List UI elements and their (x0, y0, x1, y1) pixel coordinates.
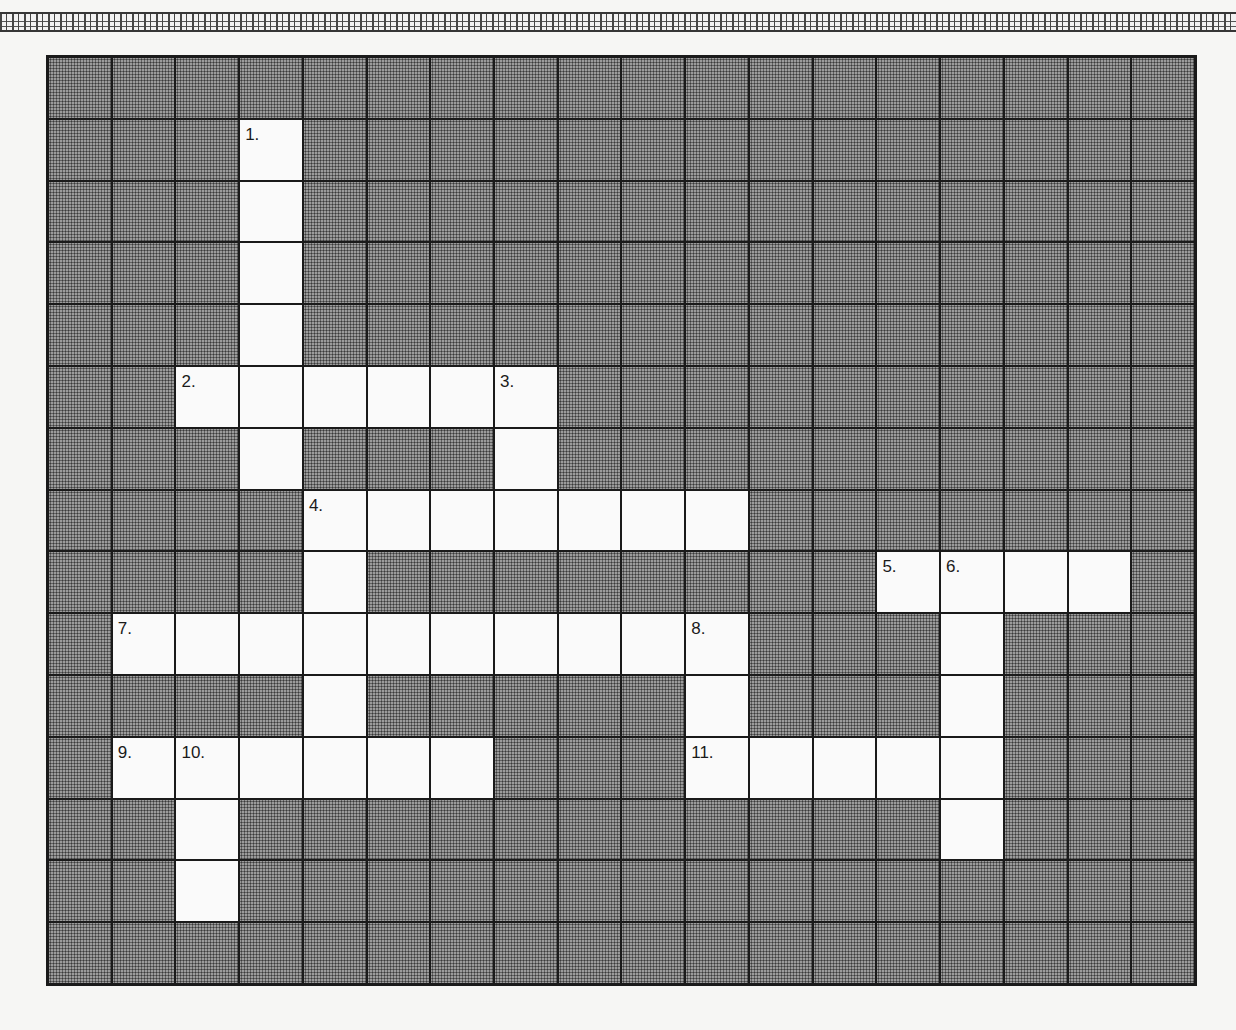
crossword-cell-open[interactable] (368, 614, 430, 674)
crossword-cell-open[interactable] (240, 243, 302, 303)
crossword-cell-blocked (622, 861, 684, 921)
crossword-cell-open[interactable] (240, 305, 302, 365)
crossword-cell-open[interactable] (240, 367, 302, 427)
crossword-cell-blocked (49, 676, 111, 736)
crossword-cell-blocked (1069, 182, 1131, 242)
crossword-cell-blocked (877, 491, 939, 551)
crossword-cell-open[interactable]: 1. (240, 120, 302, 180)
crossword-cell-blocked (368, 120, 430, 180)
crossword-cell-open[interactable] (495, 429, 557, 489)
crossword-cell-open[interactable] (686, 491, 748, 551)
crossword-cell-open[interactable]: 5. (877, 552, 939, 612)
crossword-cell-open[interactable] (559, 491, 621, 551)
crossword-cell-open[interactable] (176, 614, 238, 674)
crossword-cell-open[interactable] (431, 367, 493, 427)
crossword-cell-open[interactable] (1069, 552, 1131, 612)
crossword-cell-blocked (495, 305, 557, 365)
crossword-cell-blocked (1005, 305, 1067, 365)
crossword-cell-blocked (559, 58, 621, 118)
crossword-cell-blocked (1005, 614, 1067, 674)
crossword-cell-blocked (1005, 182, 1067, 242)
crossword-cell-blocked (750, 923, 812, 983)
crossword-cell-blocked (1132, 182, 1194, 242)
crossword-cell-open[interactable] (304, 367, 366, 427)
crossword-cell-open[interactable] (686, 676, 748, 736)
crossword-cell-blocked (368, 861, 430, 921)
crossword-cell-open[interactable] (750, 738, 812, 798)
crossword-cell-blocked (368, 800, 430, 860)
crossword-cell-blocked (176, 676, 238, 736)
crossword-cell-open[interactable] (941, 738, 1003, 798)
crossword-cell-blocked (176, 243, 238, 303)
crossword-cell-open[interactable]: 6. (941, 552, 1003, 612)
crossword-cell-open[interactable]: 3. (495, 367, 557, 427)
crossword-cell-blocked (622, 367, 684, 427)
crossword-cell-blocked (1069, 120, 1131, 180)
crossword-cell-open[interactable] (431, 614, 493, 674)
crossword-cell-blocked (622, 923, 684, 983)
crossword-cell-open[interactable] (368, 367, 430, 427)
crossword-cell-open[interactable]: 10. (176, 738, 238, 798)
crossword-cell-blocked (1132, 367, 1194, 427)
crossword-cell-open[interactable] (941, 800, 1003, 860)
crossword-cell-open[interactable]: 4. (304, 491, 366, 551)
crossword-cell-open[interactable] (877, 738, 939, 798)
crossword-cell-blocked (1069, 243, 1131, 303)
crossword-cell-blocked (113, 367, 175, 427)
crossword-cell-blocked (686, 243, 748, 303)
clue-number: 5. (882, 557, 896, 577)
crossword-cell-blocked (113, 552, 175, 612)
crossword-cell-blocked (49, 429, 111, 489)
crossword-cell-blocked (814, 58, 876, 118)
crossword-cell-open[interactable] (431, 491, 493, 551)
crossword-cell-blocked (622, 738, 684, 798)
crossword-cell-open[interactable] (304, 738, 366, 798)
crossword-cell-blocked (431, 429, 493, 489)
crossword-cell-blocked (176, 429, 238, 489)
crossword-cell-open[interactable]: 8. (686, 614, 748, 674)
crossword-cell-open[interactable]: 11. (686, 738, 748, 798)
crossword-cell-open[interactable] (622, 614, 684, 674)
crossword-cell-open[interactable] (176, 800, 238, 860)
crossword-cell-open[interactable] (368, 491, 430, 551)
crossword-cell-blocked (176, 58, 238, 118)
crossword-cell-open[interactable] (622, 491, 684, 551)
crossword-cell-open[interactable]: 2. (176, 367, 238, 427)
crossword-cell-open[interactable] (368, 738, 430, 798)
crossword-cell-open[interactable] (1005, 552, 1067, 612)
crossword-cell-open[interactable] (814, 738, 876, 798)
crossword-cell-open[interactable] (304, 676, 366, 736)
crossword-cell-blocked (495, 58, 557, 118)
crossword-cell-blocked (304, 243, 366, 303)
crossword-cell-blocked (1132, 491, 1194, 551)
crossword-cell-open[interactable] (240, 614, 302, 674)
crossword-cell-blocked (941, 243, 1003, 303)
crossword-cell-open[interactable]: 7. (113, 614, 175, 674)
crossword-cell-blocked (1069, 923, 1131, 983)
crossword-cell-blocked (622, 305, 684, 365)
crossword-cell-open[interactable] (240, 738, 302, 798)
crossword-cell-blocked (750, 58, 812, 118)
crossword-cell-open[interactable] (941, 676, 1003, 736)
crossword-cell-open[interactable] (495, 491, 557, 551)
crossword-cell-open[interactable] (495, 614, 557, 674)
crossword-cell-blocked (431, 676, 493, 736)
crossword-cell-open[interactable]: 9. (113, 738, 175, 798)
crossword-cell-blocked (941, 923, 1003, 983)
crossword-cell-open[interactable] (304, 552, 366, 612)
crossword-cell-open[interactable] (559, 614, 621, 674)
crossword-cell-open[interactable] (431, 738, 493, 798)
crossword-cell-open[interactable] (240, 429, 302, 489)
clue-number: 2. (181, 372, 195, 392)
crossword-cell-blocked (49, 120, 111, 180)
crossword-cell-blocked (877, 182, 939, 242)
crossword-cell-blocked (113, 429, 175, 489)
crossword-cell-open[interactable] (304, 614, 366, 674)
crossword-cell-blocked (1132, 676, 1194, 736)
crossword-cell-blocked (368, 676, 430, 736)
crossword-cell-blocked (559, 738, 621, 798)
crossword-cell-open[interactable] (240, 182, 302, 242)
crossword-cell-open[interactable] (941, 614, 1003, 674)
crossword-cell-open[interactable] (176, 861, 238, 921)
crossword-cell-blocked (49, 491, 111, 551)
